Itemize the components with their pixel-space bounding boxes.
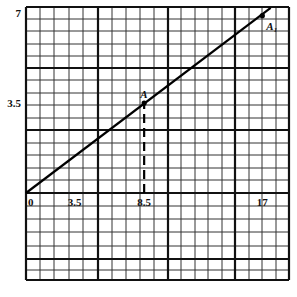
y-tick-label: 7 <box>16 7 22 19</box>
y-tick-label: 3.5 <box>7 97 21 109</box>
x-tick-label: 3.5 <box>68 196 82 208</box>
point-label-a: A <box>139 88 147 100</box>
point-a1 <box>260 13 265 18</box>
x-tick-label: 17 <box>257 196 269 208</box>
point-label-a1: A₁ <box>265 20 277 32</box>
grid <box>26 7 289 280</box>
x-tick-label: 0 <box>28 196 34 208</box>
chart: AA₁03.58.51773.5 <box>0 0 297 297</box>
point-a <box>142 100 147 105</box>
x-tick-label: 8.5 <box>137 196 151 208</box>
